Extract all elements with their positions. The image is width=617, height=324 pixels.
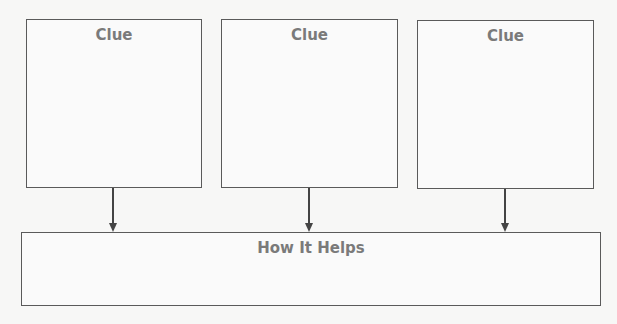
clue-box-title: Clue bbox=[27, 26, 201, 44]
arrow-head-icon bbox=[109, 223, 117, 232]
arrow-head-icon bbox=[501, 223, 509, 232]
arrow-connector-1 bbox=[112, 188, 114, 224]
arrow-connector-2 bbox=[308, 188, 310, 224]
clue-box-title: Clue bbox=[222, 26, 397, 44]
arrow-connector-3 bbox=[504, 189, 506, 224]
clue-box-title: Clue bbox=[418, 27, 593, 45]
how-it-helps-title: How It Helps bbox=[22, 239, 600, 257]
clue-box-2: Clue bbox=[221, 19, 398, 188]
how-it-helps-box: How It Helps bbox=[21, 232, 601, 306]
arrow-head-icon bbox=[305, 223, 313, 232]
clue-box-1: Clue bbox=[26, 19, 202, 188]
clue-box-3: Clue bbox=[417, 20, 594, 189]
